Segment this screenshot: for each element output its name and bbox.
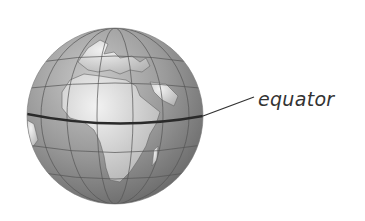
equator-label: equator xyxy=(258,88,334,110)
equator-leader-line xyxy=(203,97,254,116)
globe xyxy=(27,28,203,204)
globe-diagram xyxy=(0,0,365,221)
